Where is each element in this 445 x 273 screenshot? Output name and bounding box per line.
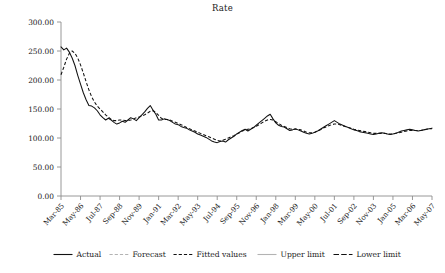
legend-label: Lower limit	[357, 250, 401, 259]
legend-item: Upper limit	[258, 250, 325, 259]
y-tick-label: 200.00	[28, 76, 54, 85]
legend-item: Actual	[54, 250, 102, 259]
series-line-fitted-values	[61, 51, 432, 141]
x-tick-label: May-07	[412, 201, 437, 228]
y-axis-ticks	[57, 22, 61, 196]
y-axis: 0.0050.00100.00150.00200.00250.00300.00	[28, 18, 61, 201]
page-title: Rate	[0, 3, 445, 13]
x-axis-ticks	[61, 196, 432, 200]
legend: ActualForecastFitted valuesUpper limitLo…	[54, 250, 401, 259]
legend-label: Upper limit	[281, 250, 325, 259]
x-tick-label: Nov-03	[354, 201, 379, 227]
chart-figure: Rate 0.0050.00100.00150.00200.00250.0030…	[0, 0, 445, 273]
y-axis-tick-labels: 0.0050.00100.00150.00200.00250.00300.00	[28, 18, 54, 201]
x-tick-label: May-86	[61, 201, 86, 228]
legend-label: Forecast	[133, 250, 166, 259]
x-axis-tick-labels: Mar-85May-86Jul-87Sep-88Nov-89Jan-91Mar-…	[41, 201, 437, 228]
y-tick-label: 100.00	[28, 134, 54, 143]
x-tick-label: Nov-89	[120, 201, 145, 227]
series-line-actual	[61, 47, 432, 143]
x-tick-label: May-93	[178, 201, 203, 228]
y-tick-label: 0.00	[38, 192, 55, 201]
y-tick-label: 150.00	[28, 105, 54, 114]
legend-label: Fitted values	[197, 250, 247, 259]
rate-line-chart: 0.0050.00100.00150.00200.00250.00300.00 …	[0, 0, 445, 273]
x-axis: Mar-85May-86Jul-87Sep-88Nov-89Jan-91Mar-…	[41, 196, 437, 228]
data-series-group	[61, 47, 432, 143]
legend-item: Lower limit	[334, 250, 401, 259]
y-tick-label: 300.00	[28, 18, 54, 27]
legend-item: Forecast	[110, 250, 166, 259]
legend-label: Actual	[76, 250, 102, 259]
x-tick-label: May-00	[295, 201, 320, 228]
x-tick-label: Nov-96	[237, 201, 262, 227]
y-tick-label: 50.00	[33, 163, 54, 172]
legend-item: Fitted values	[174, 250, 247, 259]
y-tick-label: 250.00	[28, 47, 54, 56]
